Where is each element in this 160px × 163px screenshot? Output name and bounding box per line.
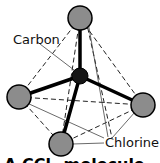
chlorine-leader-bottom [72, 143, 104, 144]
carbon-leader [40, 44, 74, 70]
carbon-label: Carbon [13, 33, 60, 46]
chlorine-atom-bottom [49, 132, 73, 156]
chlorine-atom-top [68, 6, 92, 30]
chlorine-label: Chlorine [105, 136, 159, 149]
figure-caption: A CCl₄ molecule [4, 155, 145, 163]
carbon-atom [72, 68, 88, 84]
chlorine-atom-left [7, 85, 31, 109]
chlorine-atom-right [131, 93, 155, 117]
